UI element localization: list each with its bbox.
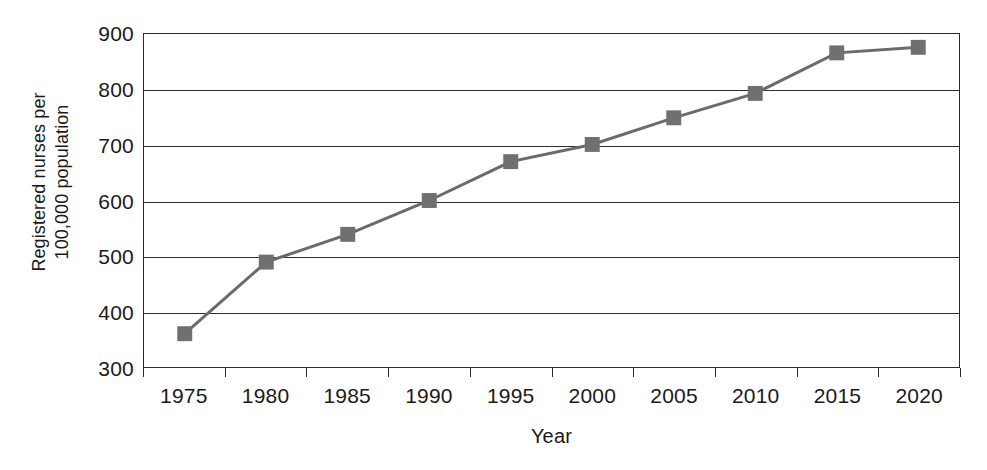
x-axis-tick-label: 2010: [711, 385, 801, 407]
y-axis-tick-label: 500: [74, 246, 134, 267]
x-axis-tick-label: 1985: [302, 385, 392, 407]
x-axis-tick: [878, 368, 879, 377]
line-chart: Registered nurses per 100,000 population…: [0, 0, 987, 470]
x-axis-tick-label: 2020: [874, 385, 964, 407]
x-axis-tick-label: 2000: [547, 385, 637, 407]
x-axis-tick-label: 1980: [221, 385, 311, 407]
x-axis-tick-label: 1995: [466, 385, 556, 407]
y-axis-tick-label: 300: [74, 358, 134, 379]
x-axis-tick: [306, 368, 307, 377]
y-axis-tick-label: 400: [74, 302, 134, 323]
data-point-marker: [911, 40, 926, 55]
data-point-marker: [585, 137, 600, 152]
x-axis-tick: [143, 368, 144, 377]
x-axis-tick: [797, 368, 798, 377]
y-axis-tick-labels: 300400500600700800900: [70, 0, 134, 470]
y-axis-tick-label: 800: [74, 79, 134, 100]
data-point-marker: [829, 45, 844, 60]
y-axis-tick-label: 900: [74, 23, 134, 44]
x-axis-tick-label: 1975: [139, 385, 229, 407]
y-axis-title-line-1: Registered nurses per: [28, 12, 51, 352]
x-axis-tick-label: 1990: [384, 385, 474, 407]
x-axis-tick: [552, 368, 553, 377]
data-point-marker: [259, 255, 274, 270]
y-axis-tick-label: 600: [74, 191, 134, 212]
data-point-marker: [503, 154, 518, 169]
data-point-marker: [666, 110, 681, 125]
data-point-marker: [422, 193, 437, 208]
y-axis-tick-label: 700: [74, 135, 134, 156]
x-axis-title: Year: [143, 425, 960, 448]
data-point-marker: [748, 86, 763, 101]
x-axis-tick: [225, 368, 226, 377]
x-axis-tick: [388, 368, 389, 377]
series-line: [185, 47, 919, 333]
series-line-registered-nurses: [144, 34, 959, 367]
x-axis-tick: [633, 368, 634, 377]
x-axis-tick-label: 2005: [629, 385, 719, 407]
x-axis-tick: [960, 368, 961, 377]
x-axis-tick-label: 2015: [792, 385, 882, 407]
x-axis-tick: [470, 368, 471, 377]
x-axis-tick: [715, 368, 716, 377]
data-point-marker: [340, 227, 355, 242]
data-point-marker: [177, 326, 192, 341]
plot-area: [143, 33, 960, 368]
